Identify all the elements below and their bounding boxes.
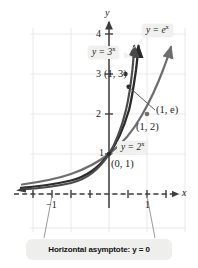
exponential-functions-figure: 4 3 2 1 −1 1 y x (1, 3) (1, e) (1, 2) (0…: [0, 0, 198, 268]
x-tick-label-neg1: −1: [46, 200, 57, 210]
callout-curve-3: y = 3x: [88, 46, 119, 59]
y-tick-label-1: 1: [99, 148, 104, 158]
callout-curve-e: y = ex: [142, 24, 173, 37]
asymptote-caption-text: Horizontal asymptote: y = 0: [48, 245, 150, 254]
callout-curve-2-exponent: x: [141, 140, 144, 147]
caption-connectors: [44, 196, 155, 238]
asymptote-caption-box: Horizontal asymptote: y = 0: [26, 239, 172, 260]
callout-pointer-3: [124, 52, 133, 58]
callout-curve-3-text: y = 3: [92, 47, 112, 57]
x-tick-label-1: 1: [145, 200, 150, 210]
callout-pointer-e: [129, 36, 145, 52]
point-label-1-e: (1, e): [156, 105, 178, 116]
point-label-0-1: (0, 1): [111, 159, 134, 170]
plot-canvas: [0, 0, 198, 268]
callout-curve-e-text: y = e: [146, 25, 166, 35]
callout-curve-3-exponent: x: [112, 45, 115, 52]
y-tick-label-2: 2: [96, 109, 101, 119]
y-tick-label-3: 3: [96, 69, 101, 79]
point-label-1-2: (1, 2): [136, 122, 159, 133]
marker-1-2: [145, 112, 150, 117]
x-axis-label: x: [182, 188, 186, 198]
point-label-1-3: (1, 3): [104, 69, 127, 80]
callout-curve-2: y = 2x: [117, 141, 148, 154]
callout-curve-e-exponent: x: [166, 23, 169, 30]
y-axis-label: y: [105, 8, 109, 18]
y-tick-label-4: 4: [96, 29, 101, 39]
callout-curve-2-text: y = 2: [121, 142, 141, 152]
